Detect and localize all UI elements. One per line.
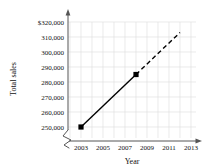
y-tick-label: 260,000 bbox=[41, 109, 64, 117]
data-point-marker bbox=[133, 72, 138, 77]
y-axis-title: Total sales bbox=[9, 62, 18, 96]
chart-canvas: $320,000 310,000 300,000 290,000 280,000… bbox=[0, 0, 204, 167]
grid-horizontal bbox=[68, 22, 196, 127]
x-tick-labels: 2003 2005 2007 2009 2011 2013 bbox=[74, 144, 199, 152]
x-tick-label: 2009 bbox=[140, 144, 155, 152]
x-axis-title: Year bbox=[125, 157, 140, 166]
y-tick-labels: $320,000 310,000 300,000 290,000 280,000… bbox=[38, 19, 65, 132]
y-tick-label: $320,000 bbox=[38, 19, 65, 27]
y-tick-label: 300,000 bbox=[41, 49, 64, 57]
x-axis bbox=[69, 139, 202, 144]
y-tick-label: 310,000 bbox=[41, 34, 64, 42]
data-point-marker bbox=[78, 124, 83, 129]
y-tick-label: 270,000 bbox=[41, 94, 64, 102]
x-tick-label: 2011 bbox=[162, 144, 176, 152]
sales-projection-chart: $320,000 310,000 300,000 290,000 280,000… bbox=[0, 0, 204, 167]
y-tick-label: 290,000 bbox=[41, 64, 64, 72]
x-tick-label: 2003 bbox=[74, 144, 89, 152]
y-tick-label: 250,000 bbox=[41, 124, 64, 132]
x-tick-label: 2007 bbox=[118, 144, 133, 152]
x-tick-label: 2013 bbox=[184, 144, 199, 152]
series-observed-line bbox=[81, 75, 136, 128]
y-tick-label: 280,000 bbox=[41, 79, 64, 87]
x-tick-label: 2005 bbox=[96, 144, 111, 152]
